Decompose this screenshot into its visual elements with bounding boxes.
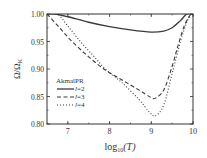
y-tick-label: 0.85: [31, 93, 44, 102]
series-line-l2: [47, 14, 193, 33]
legend-entry-label: l=3: [75, 93, 85, 101]
plot-frame: [47, 14, 193, 124]
x-tick-label: 9: [149, 127, 153, 136]
x-axis-label: log10(T): [104, 141, 136, 153]
y-tick-label: 0.90: [31, 65, 44, 74]
chart-container: 78910 0.800.850.900.951.00 log10(T) Ω/ΩK…: [0, 0, 207, 158]
line-chart: 78910 0.800.850.900.951.00 log10(T) Ω/ΩK…: [0, 0, 207, 158]
legend-title: AkmalPR: [56, 77, 84, 85]
legend-entry-label: l=2: [75, 85, 85, 93]
x-tick-label: 8: [108, 127, 112, 136]
legend: AkmalPR l=2l=3l=4: [56, 77, 85, 109]
y-axis-label: Ω/ΩK: [12, 58, 23, 79]
series-group: [47, 13, 193, 116]
y-tick-label: 0.80: [31, 120, 44, 129]
y-tick-label: 1.00: [31, 10, 44, 19]
x-axis-ticks: 78910: [47, 14, 197, 136]
x-tick-label: 7: [66, 127, 70, 136]
y-axis-ticks: 0.800.850.900.951.00: [31, 10, 193, 129]
y-tick-label: 0.95: [31, 38, 44, 47]
legend-entry-label: l=4: [75, 101, 85, 109]
x-tick-label: 10: [189, 127, 197, 136]
